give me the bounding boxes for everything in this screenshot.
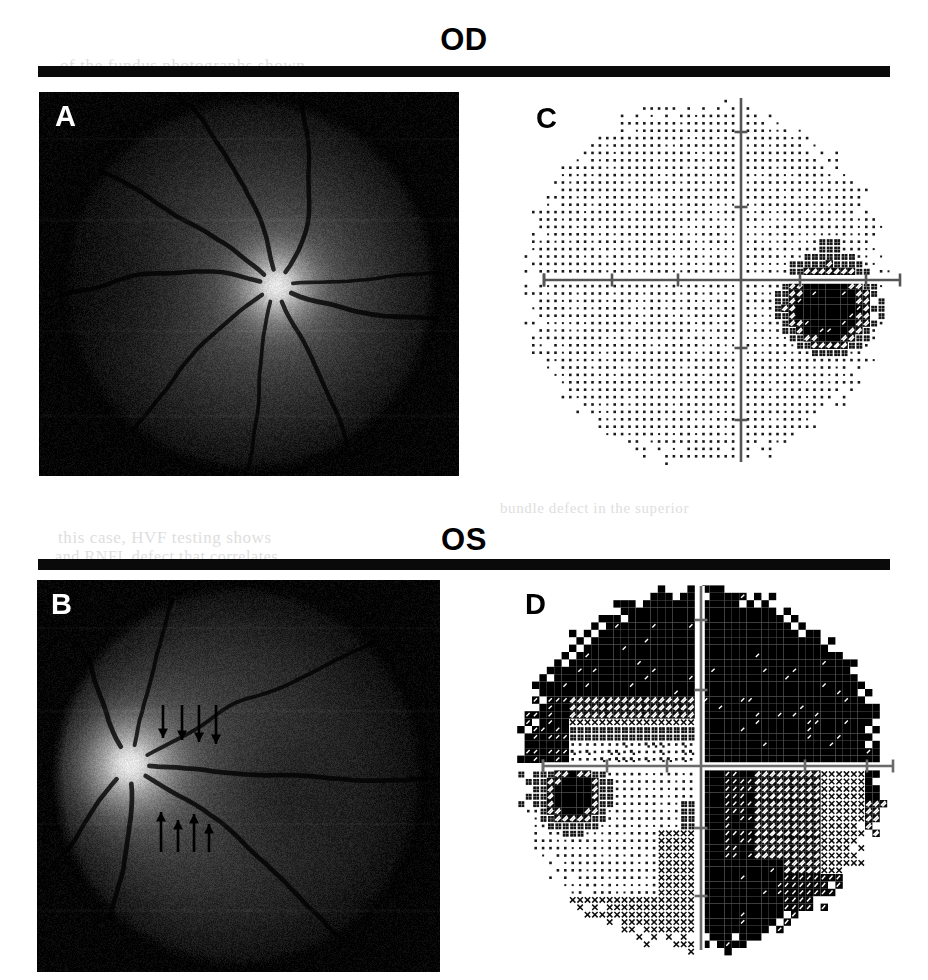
panel-c-visual-field-od: C: [500, 90, 910, 490]
panel-b-fundus-os: B: [37, 580, 440, 972]
panel-a-fundus-od: A: [39, 92, 459, 476]
section-rule-od: [38, 66, 890, 77]
panel-label-b: B: [51, 590, 72, 619]
eye-title-os: OS: [0, 522, 928, 558]
section-rule-os: [38, 559, 890, 570]
figure-root: of the fundus photographs shownthis case…: [0, 0, 928, 980]
panel-d-visual-field-os: D: [495, 578, 907, 974]
panel-label-a: A: [55, 102, 76, 131]
ghost-text-line: bundle defect in the superior: [500, 500, 689, 517]
panel-label-d: D: [525, 590, 546, 619]
eye-title-od: OD: [0, 22, 928, 58]
panel-label-c: C: [536, 104, 557, 133]
